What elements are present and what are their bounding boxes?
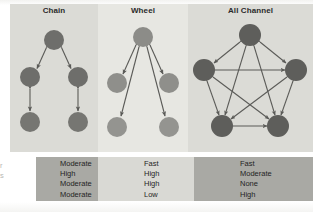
criteria-table: Moderate High Moderate Moderate Fast Hig… — [0, 157, 313, 201]
panel-wheel: Wheel — [98, 4, 188, 152]
row-label-fragment: s — [0, 171, 14, 181]
all-channel-network-svg — [188, 4, 313, 152]
chain-network-svg — [10, 4, 98, 152]
wheel-edges — [121, 45, 165, 116]
chain-nodes — [20, 30, 88, 132]
wheel-network-svg — [98, 4, 188, 152]
criteria-value: High — [194, 190, 313, 200]
all-channel-nodes — [193, 24, 307, 137]
row-label-fragment: r — [0, 161, 14, 171]
criteria-column-wheel: Fast High High Low — [98, 157, 194, 201]
criteria-value: High — [98, 169, 194, 179]
criteria-column-chain: Moderate High Moderate Moderate — [36, 157, 98, 201]
network-diagrams-band: Chain — [10, 4, 313, 152]
criteria-value: Moderate — [36, 159, 98, 169]
criteria-value: Moderate — [36, 190, 98, 200]
scan-shade-bottom — [0, 202, 313, 212]
all-channel-edges — [207, 42, 293, 126]
criteria-row-label-stub: r s — [0, 159, 14, 201]
criteria-value: Fast — [98, 159, 194, 169]
criteria-value: High — [36, 169, 98, 179]
communication-networks-figure: Chain — [0, 0, 313, 212]
criteria-value: Fast — [194, 159, 313, 169]
wheel-nodes — [107, 27, 179, 137]
criteria-value: High — [98, 179, 194, 189]
panel-chain: Chain — [10, 4, 98, 152]
criteria-value: Moderate — [36, 179, 98, 189]
criteria-value: Moderate — [194, 169, 313, 179]
criteria-value: Low — [98, 190, 194, 200]
criteria-value: None — [194, 179, 313, 189]
panel-all-channel: All Channel — [188, 4, 313, 152]
criteria-column-all-channel: Fast Moderate None High — [194, 157, 313, 201]
